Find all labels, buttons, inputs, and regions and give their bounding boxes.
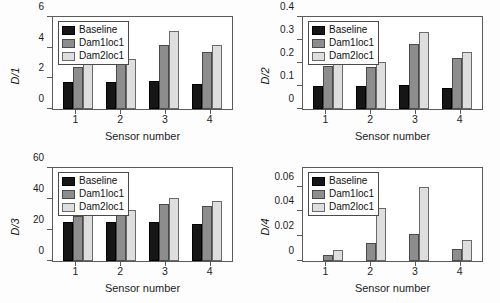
y-tick-mark [297,85,302,86]
bar-baseline-sensor-3 [149,81,159,109]
bar-dam2loc1-sensor-2 [126,59,136,109]
y-tick-mark [297,210,302,211]
plot-area-d2: 00.10.20.30.41234BaselineDam1loc1Dam2loc… [302,16,483,110]
y-tick-mark [297,62,302,63]
y-tick-label: 0 [288,246,294,256]
bar-group [149,17,179,109]
y-tick-mark [47,16,52,17]
y-tick-label: 0.2 [280,48,294,58]
y-axis-label: D/1 [9,67,21,84]
legend: BaselineDam1loc1Dam2loc1 [58,21,129,65]
legend-item: Baseline [312,24,374,36]
y-tick-mark [297,108,302,109]
bar-dam2loc1-sensor-4 [212,45,222,109]
x-tick-label: 2 [367,114,373,125]
legend-item: Baseline [312,175,374,187]
x-tick-label: 4 [207,266,213,277]
chart-panel-d2: D/200.10.20.30.41234BaselineDam1loc1Dam2… [250,0,500,151]
y-tick-label: 0.3 [280,25,294,35]
bar-dam1loc1-sensor-3 [159,204,169,261]
bar-group [399,168,429,261]
x-tick-label: 4 [457,114,463,125]
chart-panel-d4: D/400.020.040.061234BaselineDam1loc1Dam2… [250,151,500,303]
y-tick-label: 20 [33,215,44,225]
x-tick-label: 3 [412,266,418,277]
x-tick-label: 4 [207,114,213,125]
bar-dam2loc1-sensor-3 [169,31,179,109]
bar-dam1loc1-sensor-1 [323,66,333,109]
x-axis-label: Sensor number [302,282,483,294]
bar-dam2loc1-sensor-4 [212,201,222,261]
bar-dam1loc1-sensor-3 [159,45,169,109]
legend-swatch-icon [62,203,75,212]
y-tick-mark [47,108,52,109]
bar-dam2loc1-sensor-2 [376,208,386,261]
bar-dam2loc1-sensor-2 [126,210,136,261]
bar-dam1loc1-sensor-2 [366,67,376,109]
legend-label: Dam2loc1 [329,51,374,61]
legend-item: Dam2loc1 [312,50,374,62]
legend-swatch-icon [312,177,325,186]
legend-label: Baseline [79,25,117,35]
legend-item: Dam1loc1 [312,188,374,200]
legend-item: Dam1loc1 [312,37,374,49]
y-tick-mark [47,47,52,48]
bar-group [399,17,429,109]
legend-swatch-icon [312,203,325,212]
legend-label: Baseline [79,176,117,186]
bar-dam2loc1-sensor-4 [462,240,472,261]
plot-area-d4: 00.020.040.061234BaselineDam1loc1Dam2loc… [302,167,483,262]
plot-area-d1: 02461234BaselineDam1loc1Dam2loc1 [52,16,233,110]
bar-dam1loc1-sensor-1 [73,216,83,261]
plot-area-d3: 02040601234BaselineDam1loc1Dam2loc1 [52,167,233,262]
legend: BaselineDam1loc1Dam2loc1 [308,172,379,216]
x-tick-label: 1 [322,266,328,277]
legend: BaselineDam1loc1Dam2loc1 [58,172,129,216]
x-tick-label: 1 [72,114,78,125]
x-tick-label: 2 [367,266,373,277]
x-axis-label: Sensor number [52,130,233,142]
y-axis-label: D/2 [259,67,271,84]
y-tick-mark [297,186,302,187]
y-tick-label: 0 [38,246,44,256]
y-tick-label: 0.04 [275,196,294,206]
bar-dam2loc1-sensor-3 [419,187,429,261]
chart-panel-d1: D/102461234BaselineDam1loc1Dam2loc1Senso… [0,0,250,151]
bar-dam1loc1-sensor-3 [409,44,419,109]
bar-dam2loc1-sensor-3 [169,198,179,261]
legend-swatch-icon [312,39,325,48]
legend-swatch-icon [312,26,325,35]
y-tick-mark [47,198,52,199]
legend-label: Dam2loc1 [79,202,124,212]
y-tick-mark [47,229,52,230]
bar-dam2loc1-sensor-3 [419,32,429,109]
y-tick-label: 6 [38,2,44,12]
legend-swatch-icon [62,26,75,35]
legend-label: Dam1loc1 [329,38,374,48]
bar-baseline-sensor-4 [192,224,202,261]
legend-label: Dam2loc1 [329,202,374,212]
y-tick-label: 0.02 [275,221,294,231]
bar-dam1loc1-sensor-1 [73,67,83,109]
chart-panel-d3: D/302040601234BaselineDam1loc1Dam2loc1Se… [0,151,250,303]
bar-baseline-sensor-1 [63,82,73,109]
y-tick-mark [47,260,52,261]
bar-baseline-sensor-3 [149,222,159,261]
bar-dam1loc1-sensor-1 [323,255,333,261]
y-axis-label: D/4 [259,218,271,235]
y-tick-label: 0.06 [275,172,294,182]
bar-dam1loc1-sensor-4 [202,52,212,109]
y-tick-label: 0 [288,94,294,104]
y-tick-label: 40 [33,184,44,194]
bar-dam2loc1-sensor-1 [333,250,343,261]
bar-baseline-sensor-2 [106,222,116,261]
y-axis-label: D/3 [9,218,21,235]
y-tick-label: 60 [33,153,44,163]
legend-label: Baseline [329,176,367,186]
bar-group [149,168,179,261]
bar-baseline-sensor-2 [106,82,116,109]
bar-dam1loc1-sensor-2 [116,64,126,109]
legend-item: Baseline [62,175,124,187]
bar-dam1loc1-sensor-3 [409,234,419,261]
x-tick-label: 3 [162,266,168,277]
